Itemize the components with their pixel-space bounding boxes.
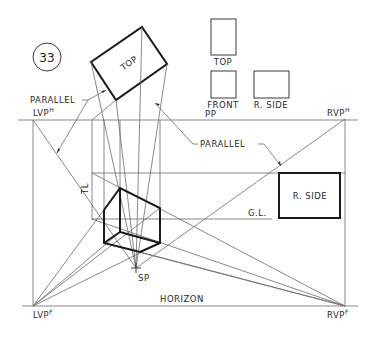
small-side-label: R. SIDE <box>254 100 288 110</box>
gl-label: G.L. <box>248 208 267 218</box>
small-top-view <box>211 19 236 55</box>
station-point: SP <box>131 263 150 283</box>
orthographic-views: TOP FRONT R. SIDE <box>207 19 289 110</box>
parallel-label-left: PARALLEL <box>30 95 75 105</box>
figure-number: 33 <box>33 43 61 71</box>
sp-label: SP <box>138 273 150 283</box>
rvp-h-label: RVPH <box>327 106 350 118</box>
rvp-f-label: RVPF <box>327 308 349 320</box>
pp-label: PP <box>205 109 216 119</box>
tl-label: TL <box>80 183 90 195</box>
small-top-label: TOP <box>213 57 233 67</box>
parallel-annotation-left: PARALLEL <box>30 90 106 153</box>
two-point-perspective-diagram: 33 TOP FRONT R. SIDE TOP PP HORIZON <box>0 0 376 337</box>
perspective-block <box>104 188 160 252</box>
lvp-h-label: LVPH <box>33 106 54 118</box>
large-side-label: R. SIDE <box>293 191 327 201</box>
small-front-view <box>211 71 236 98</box>
rotated-top-label: TOP <box>118 54 140 73</box>
rotated-top-view: TOP <box>91 27 167 100</box>
vanishing-point-labels: LVPH RVPH LVPF RVPF <box>33 106 350 320</box>
parallel-annotation-right: PARALLEL <box>155 103 281 166</box>
small-side-view <box>254 71 289 98</box>
parallel-label-right: PARALLEL <box>200 139 245 149</box>
horizon-label: HORIZON <box>160 294 204 304</box>
lvp-f-label: LVPF <box>33 308 53 320</box>
figure-number-text: 33 <box>39 51 54 65</box>
